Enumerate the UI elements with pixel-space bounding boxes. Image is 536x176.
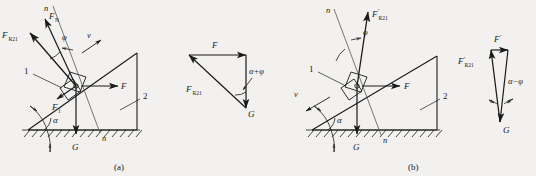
applied-force-label-a: F bbox=[120, 81, 127, 91]
triangle-a-angle-label: α+φ bbox=[249, 66, 264, 76]
resultant-reaction-arrow-b bbox=[357, 12, 368, 86]
resultant-reaction-arrow-a bbox=[30, 33, 76, 86]
svg-text:R21: R21 bbox=[193, 90, 203, 96]
svg-text:F: F bbox=[493, 34, 500, 44]
ground-hatching-a bbox=[22, 130, 142, 137]
incline-angle-pointer-top-a bbox=[30, 106, 37, 111]
applied-force-label-b: F bbox=[403, 81, 410, 91]
weight-label-a: G bbox=[72, 142, 79, 152]
friction-force-label-a: F f bbox=[51, 102, 61, 114]
body-one-label-a: 1 bbox=[24, 66, 29, 76]
triangle-b-resultant-arrow bbox=[491, 50, 500, 122]
body-one-leader-b bbox=[318, 72, 346, 86]
friction-angle-arc-b bbox=[336, 49, 345, 61]
caption-b: (b) bbox=[408, 162, 419, 172]
triangle-a-applied-force-label: F bbox=[211, 40, 218, 50]
incline-angle-label-b: α bbox=[337, 115, 342, 125]
body-two-label-a: 2 bbox=[143, 91, 148, 101]
normal-line-bottom-label-b: n bbox=[383, 135, 387, 145]
triangle-a-angle-arc bbox=[235, 92, 246, 95]
triangle-b-resultant-label: F ′ R21 bbox=[457, 55, 474, 68]
incline-wedge-b bbox=[312, 56, 437, 130]
body-one-leader-a bbox=[33, 74, 62, 88]
svg-text:F: F bbox=[371, 9, 378, 19]
svg-text:F: F bbox=[48, 11, 55, 21]
diagram-b-group: n n F ′ R21 φ v F G α 1 2 bbox=[294, 5, 448, 172]
svg-text:′: ′ bbox=[500, 33, 502, 41]
incline-angle-label-a: α bbox=[53, 115, 58, 125]
triangle-a-resultant-arrow bbox=[189, 55, 246, 108]
svg-text:F: F bbox=[51, 102, 58, 112]
friction-angle-label-a: φ bbox=[62, 32, 67, 42]
svg-text:F: F bbox=[1, 30, 8, 40]
friction-angle-label-b: φ bbox=[363, 27, 368, 37]
svg-text:R21: R21 bbox=[9, 36, 19, 42]
resultant-reaction-label-a: F R21 bbox=[1, 30, 18, 42]
weight-label-b: G bbox=[353, 142, 360, 152]
triangle-a-weight-label: G bbox=[248, 109, 255, 119]
svg-text:F: F bbox=[457, 56, 464, 66]
triangle-a-angle-pointer bbox=[243, 78, 252, 90]
triangle-b-angle-label: α−φ bbox=[508, 76, 523, 86]
svg-text:N: N bbox=[55, 17, 59, 23]
resultant-reaction-label-b: F ′ R21 bbox=[371, 7, 388, 21]
incline-wedge-a bbox=[28, 53, 137, 130]
friction-inclined-plane-figure: n n F N F R21 φ v F F f G bbox=[0, 0, 536, 176]
normal-line-top-label-b: n bbox=[326, 5, 330, 15]
caption-a: (a) bbox=[114, 162, 124, 172]
incline-angle-leader-a bbox=[30, 106, 50, 152]
triangle-b-weight-label: G bbox=[503, 125, 510, 135]
ground-hatching-b bbox=[306, 130, 442, 137]
normal-force-arrow-a bbox=[45, 19, 76, 86]
triangle-b-applied-force-label: F ′ bbox=[493, 33, 502, 45]
triangle-a-resultant-label: F R21 bbox=[185, 84, 202, 96]
velocity-label-b: v bbox=[294, 89, 298, 99]
force-triangle-a-group: F G F R21 α+φ bbox=[185, 40, 264, 119]
svg-text:f: f bbox=[59, 108, 61, 114]
friction-angle-arc-a bbox=[50, 52, 60, 59]
body-one-label-b: 1 bbox=[309, 64, 314, 74]
svg-text:R21: R21 bbox=[379, 15, 389, 21]
normal-line-bottom-label-a: n bbox=[102, 133, 106, 143]
force-triangle-b-group: F ′ G F ′ R21 α−φ bbox=[457, 33, 523, 136]
incline-angle-pointer-top-b bbox=[314, 106, 321, 111]
normal-line-top-label-a: n bbox=[44, 3, 48, 13]
velocity-label-a: v bbox=[87, 30, 91, 40]
normal-force-label-a: F N bbox=[48, 11, 59, 23]
svg-text:R21: R21 bbox=[465, 62, 475, 68]
diagram-a-group: n n F N F R21 φ v F F f G bbox=[1, 3, 148, 172]
svg-text:F: F bbox=[185, 84, 192, 94]
body-two-label-b: 2 bbox=[443, 91, 448, 101]
incline-angle-leader-b bbox=[314, 106, 334, 152]
velocity-arrow-a bbox=[82, 40, 101, 53]
triangle-b-weight-arrow bbox=[500, 50, 508, 122]
friction-angle-pointer-b bbox=[351, 38, 361, 40]
friction-angle-pointer-a bbox=[62, 48, 73, 50]
